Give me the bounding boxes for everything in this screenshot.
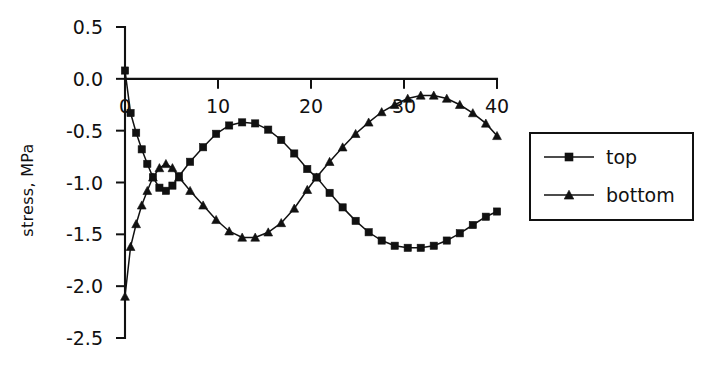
- marker-square-top: [378, 237, 385, 244]
- marker-square-top: [493, 208, 500, 215]
- marker-square-top: [169, 182, 176, 189]
- y-axis-title: stress, MPa: [18, 143, 37, 236]
- x-axis-tick-labels: 010203040: [119, 95, 509, 117]
- legend-label-bottom: bottom: [606, 184, 675, 206]
- stress-line-chart: 0.50.0-0.5-1.0-1.5-2.0-2.5 010203040 str…: [0, 0, 709, 367]
- marker-square-top: [252, 120, 259, 127]
- marker-square-top: [456, 230, 463, 237]
- marker-square-top: [213, 130, 220, 137]
- y-tick-label: -2.0: [66, 275, 103, 297]
- marker-square-top: [187, 158, 194, 165]
- legend-label-top: top: [606, 146, 637, 168]
- marker-square-top: [156, 184, 163, 191]
- marker-triangle-bottom: [143, 186, 152, 194]
- chart-legend: topbottom: [530, 133, 693, 220]
- marker-square-top: [127, 109, 134, 116]
- x-tick-label: 10: [206, 95, 230, 117]
- y-tick-label: -2.5: [66, 327, 103, 349]
- marker-square-top: [404, 244, 411, 251]
- marker-square-top: [200, 144, 207, 151]
- marker-triangle-bottom: [377, 108, 386, 116]
- marker-square-top: [144, 160, 151, 167]
- marker-square-top: [278, 136, 285, 143]
- marker-square-top: [226, 122, 233, 129]
- marker-square-top: [469, 221, 476, 228]
- marker-square-top: [121, 67, 128, 74]
- marker-triangle-bottom: [468, 109, 477, 117]
- marker-square-top: [417, 244, 424, 251]
- marker-square-top: [326, 189, 333, 196]
- marker-square-top: [291, 150, 298, 157]
- x-tick-label: 20: [299, 95, 323, 117]
- marker-square-top: [138, 146, 145, 153]
- x-tick-label: 40: [485, 95, 509, 117]
- marker-square-top: [239, 119, 246, 126]
- marker-triangle-bottom: [137, 201, 146, 209]
- series-line-bottom: [125, 95, 497, 296]
- marker-square-top: [365, 229, 372, 236]
- marker-triangle-bottom: [455, 100, 464, 108]
- marker-square-top: [133, 129, 140, 136]
- legend-marker-square: [565, 153, 573, 161]
- y-axis-tick-labels: 0.50.0-0.5-1.0-1.5-2.0-2.5: [66, 16, 103, 349]
- marker-triangle-bottom: [264, 228, 273, 236]
- marker-triangle-bottom: [126, 242, 135, 250]
- marker-triangle-bottom: [162, 159, 171, 167]
- marker-triangle-bottom: [132, 220, 141, 228]
- marker-square-top: [339, 204, 346, 211]
- marker-square-top: [265, 126, 272, 133]
- marker-square-top: [443, 237, 450, 244]
- y-tick-label: -0.5: [66, 120, 103, 142]
- y-tick-label: 0.0: [73, 68, 103, 90]
- marker-square-top: [304, 165, 311, 172]
- marker-square-top: [391, 242, 398, 249]
- marker-square-top: [482, 213, 489, 220]
- marker-square-top: [352, 217, 359, 224]
- marker-square-top: [430, 242, 437, 249]
- y-tick-label: -1.5: [66, 223, 103, 245]
- marker-square-top: [162, 187, 169, 194]
- y-tick-label: -1.0: [66, 172, 103, 194]
- chart-figure: 0.50.0-0.5-1.0-1.5-2.0-2.5 010203040 str…: [0, 0, 709, 367]
- marker-triangle-bottom: [121, 292, 130, 300]
- y-tick-label: 0.5: [73, 16, 103, 38]
